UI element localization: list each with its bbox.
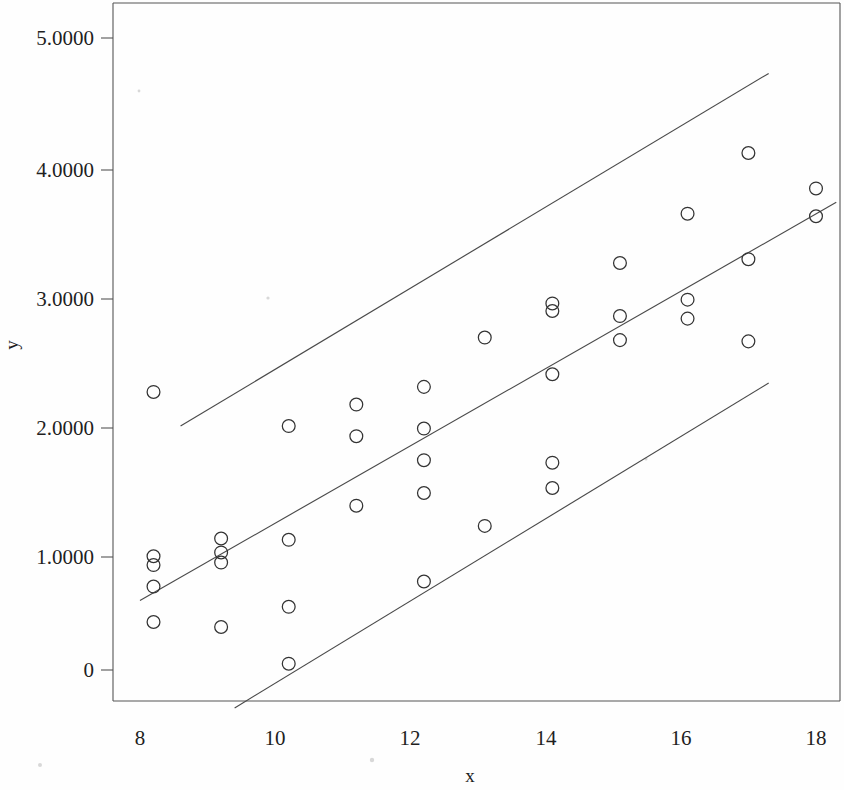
data-point	[546, 368, 559, 381]
data-point	[546, 482, 559, 495]
x-tick-label: 18	[806, 726, 827, 750]
data-point	[215, 556, 228, 569]
data-point	[742, 147, 755, 160]
data-point	[215, 532, 228, 545]
x-axis-title: x	[465, 765, 475, 786]
data-point	[681, 207, 694, 220]
x-tick-label: 14	[536, 726, 558, 750]
y-tick-label: 4.0000	[36, 158, 94, 182]
upper-prediction-band	[181, 73, 769, 426]
x-tick-label: 8	[135, 726, 146, 750]
data-point	[147, 616, 160, 629]
y-tick-label: 2.0000	[36, 416, 94, 440]
data-point	[147, 580, 160, 593]
data-point	[546, 456, 559, 469]
data-point	[147, 559, 160, 572]
y-tick-label: 3.0000	[36, 287, 94, 311]
data-point	[742, 253, 755, 266]
y-tick-label: 5.0000	[36, 26, 94, 50]
data-point	[418, 575, 431, 588]
data-point	[215, 546, 228, 559]
data-point	[350, 398, 363, 411]
lower-prediction-band	[235, 383, 769, 708]
data-point	[282, 533, 295, 546]
data-point	[282, 420, 295, 433]
data-point	[681, 293, 694, 306]
data-point	[742, 335, 755, 348]
data-point	[614, 310, 627, 323]
paper-speck	[370, 758, 374, 762]
scatter-plot-figure: 5.0000 4.0000 3.0000 2.0000 1.0000 0 8 1…	[0, 0, 844, 790]
regression-lines-layer	[140, 73, 836, 708]
plot-canvas: 5.0000 4.0000 3.0000 2.0000 1.0000 0 8 1…	[0, 0, 844, 790]
data-point	[546, 305, 559, 318]
data-points-layer	[147, 147, 822, 670]
data-point	[478, 331, 491, 344]
data-point	[681, 312, 694, 325]
y-axis-ticks	[101, 38, 113, 670]
data-point	[614, 334, 627, 347]
data-point	[282, 657, 295, 670]
regression-fit-line	[140, 202, 836, 600]
paper-speck	[38, 763, 42, 767]
data-point	[350, 430, 363, 443]
x-tick-label: 12	[400, 726, 421, 750]
data-point	[147, 386, 160, 399]
data-point	[282, 600, 295, 613]
data-point	[546, 297, 559, 310]
paper-speck	[266, 296, 269, 299]
data-point	[215, 621, 228, 634]
data-point	[614, 257, 627, 270]
x-axis-tick-labels: 8 10 12 14 16 18	[135, 726, 827, 750]
data-point	[478, 520, 491, 533]
x-tick-label: 16	[671, 726, 692, 750]
y-axis-tick-labels: 5.0000 4.0000 3.0000 2.0000 1.0000 0	[36, 26, 94, 682]
data-point	[418, 487, 431, 500]
y-axis-title: y	[1, 340, 22, 350]
y-tick-label: 1.0000	[36, 545, 94, 569]
data-point	[350, 499, 363, 512]
x-tick-label: 10	[265, 726, 286, 750]
data-point	[418, 380, 431, 393]
paper-speck	[138, 90, 141, 93]
data-point	[418, 422, 431, 435]
y-tick-label: 0	[84, 658, 95, 682]
data-point	[810, 182, 823, 195]
data-point	[418, 454, 431, 467]
